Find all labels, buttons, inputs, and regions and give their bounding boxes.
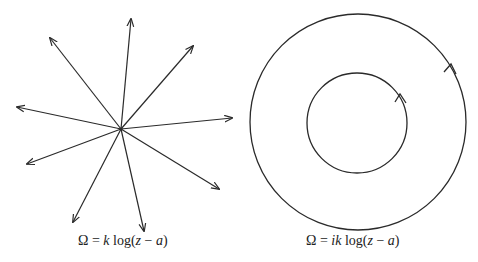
radial-arrow-icon — [27, 129, 121, 164]
diagram: Ω = k log(z − a) Ω = ik log(z − a) — [0, 0, 478, 262]
radial-arrow-icon — [50, 38, 121, 129]
cap-part: ) — [163, 233, 168, 248]
cap-part: − — [141, 233, 156, 248]
radial-arrow-icon — [121, 118, 232, 129]
outer-circle — [250, 14, 466, 230]
vortex-caption: Ω = ik log(z − a) — [306, 233, 400, 249]
cap-part: − — [373, 233, 388, 248]
diagram-canvas — [0, 0, 478, 262]
cap-part: log( — [341, 233, 367, 248]
radial-arrow-icon — [121, 46, 193, 129]
cap-part: Ω = — [78, 233, 103, 248]
source-point — [119, 127, 122, 130]
radial-arrow-icon — [73, 129, 121, 222]
radial-arrow-icon — [17, 107, 121, 129]
vortex-circles — [250, 14, 466, 230]
cap-part: Ω = — [306, 233, 331, 248]
cap-part: ik — [331, 233, 341, 248]
radial-arrow-icon — [121, 19, 131, 129]
source-caption: Ω = k log(z − a) — [78, 233, 168, 249]
cap-part: log( — [110, 233, 136, 248]
inner-circle — [307, 73, 407, 173]
radial-arrow-icon — [121, 129, 219, 189]
radial-arrow-icon — [121, 129, 144, 231]
cap-part: ) — [395, 233, 400, 248]
cap-part: a — [388, 233, 395, 248]
source-flow-arrows — [17, 19, 232, 231]
cap-part: a — [156, 233, 163, 248]
